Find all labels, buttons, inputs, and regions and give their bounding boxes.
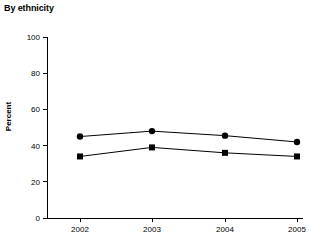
data-point-circle [77, 133, 83, 139]
data-point-square [149, 144, 155, 150]
series-line-circle [80, 131, 297, 142]
series-line-square [80, 147, 297, 156]
y-tick-label: 60 [31, 105, 40, 114]
chart-container: By ethnicity Percent 020406080100 200220… [0, 0, 309, 246]
x-axis-ticks: 2002200320042005 [71, 218, 306, 234]
axis-lines [47, 37, 303, 218]
y-tick-label: 40 [31, 142, 40, 151]
x-tick-label: 2003 [143, 225, 161, 234]
data-series [77, 128, 300, 160]
data-point-circle [222, 132, 228, 138]
y-tick-label: 20 [31, 178, 40, 187]
data-point-square [77, 153, 83, 159]
y-tick-label: 0 [36, 214, 41, 223]
x-tick-label: 2002 [71, 225, 89, 234]
data-point-circle [294, 139, 300, 145]
data-point-square [222, 150, 228, 156]
x-tick-label: 2005 [288, 225, 306, 234]
data-point-circle [149, 128, 155, 134]
x-tick-label: 2004 [216, 225, 234, 234]
y-axis-ticks: 020406080100 [27, 33, 47, 223]
plot-area: 020406080100 2002200320042005 [0, 0, 309, 246]
data-point-square [294, 153, 300, 159]
y-tick-label: 100 [27, 33, 41, 42]
y-tick-label: 80 [31, 69, 40, 78]
